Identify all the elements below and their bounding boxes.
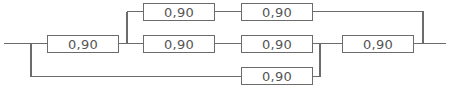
block-g-value: 0,90 xyxy=(262,69,292,84)
block-a-value: 0,90 xyxy=(68,37,98,52)
block-g: 0,90 xyxy=(241,67,313,85)
block-f: 0,90 xyxy=(342,35,414,53)
block-e: 0,90 xyxy=(241,35,313,53)
block-a: 0,90 xyxy=(47,35,119,53)
block-b-value: 0,90 xyxy=(164,5,194,20)
block-d-value: 0,90 xyxy=(164,37,194,52)
block-e-value: 0,90 xyxy=(262,37,292,52)
block-c-value: 0,90 xyxy=(262,5,292,20)
reliability-diagram: 0,90 0,90 0,90 0,90 0,90 0,90 0,90 xyxy=(0,0,450,87)
wire-g-merge xyxy=(313,44,320,77)
block-b: 0,90 xyxy=(143,3,215,21)
block-c: 0,90 xyxy=(241,3,313,21)
block-d: 0,90 xyxy=(143,35,215,53)
block-f-value: 0,90 xyxy=(363,37,393,52)
